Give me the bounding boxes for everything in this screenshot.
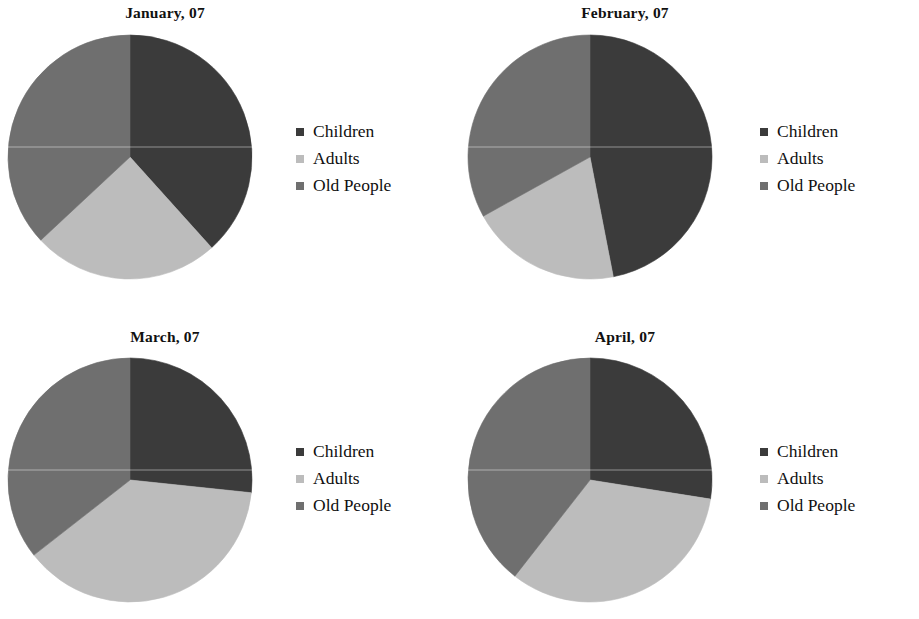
chart-title: February, 07 (460, 4, 790, 22)
legend-swatch-adults-icon (296, 155, 304, 163)
legend-item-adults: Adults (760, 145, 919, 172)
legend-swatch-children-icon (296, 448, 304, 456)
chart-title: April, 07 (460, 328, 790, 346)
legend-label-old-people: Old People (777, 177, 855, 195)
pie-chart-february (466, 32, 714, 282)
legend-label-adults: Adults (777, 470, 824, 488)
legend-item-adults: Adults (296, 145, 456, 172)
pie-slice-children (130, 358, 252, 493)
legend-item-children: Children (296, 118, 456, 145)
legend-label-children: Children (313, 123, 374, 141)
legend-item-children: Children (296, 438, 456, 465)
legend-label-adults: Adults (313, 470, 360, 488)
chart-panel-april: April, 07 Children Adults Old People (460, 310, 919, 619)
legend-label-adults: Adults (313, 150, 360, 168)
legend-label-children: Children (777, 443, 838, 461)
pie-chart-january (6, 32, 254, 282)
legend-item-children: Children (760, 438, 919, 465)
legend-item-adults: Adults (760, 465, 919, 492)
legend-item-adults: Adults (296, 465, 456, 492)
legend: Children Adults Old People (296, 118, 456, 199)
legend-swatch-adults-icon (296, 475, 304, 483)
pie-svg (466, 32, 714, 282)
legend-label-old-people: Old People (313, 177, 391, 195)
pie-chart-april (466, 355, 714, 605)
pie-slice-children (590, 358, 712, 499)
pie-chart-grid: January, 07 Children Adults Old People F… (0, 0, 919, 619)
legend-swatch-old-people-icon (760, 182, 768, 190)
legend-label-adults: Adults (777, 150, 824, 168)
legend-label-old-people: Old People (777, 497, 855, 515)
legend: Children Adults Old People (760, 438, 919, 519)
legend-label-children: Children (777, 123, 838, 141)
chart-panel-february: February, 07 Children Adults Old People (460, 0, 919, 310)
legend-label-old-people: Old People (313, 497, 391, 515)
legend-swatch-old-people-icon (296, 182, 304, 190)
chart-title: January, 07 (0, 4, 330, 22)
legend-swatch-adults-icon (760, 475, 768, 483)
legend-item-old-people: Old People (296, 172, 456, 199)
legend-swatch-adults-icon (760, 155, 768, 163)
chart-title: March, 07 (0, 328, 330, 346)
chart-panel-march: March, 07 Children Adults Old People (0, 310, 460, 619)
legend-swatch-old-people-icon (296, 502, 304, 510)
legend-item-old-people: Old People (760, 492, 919, 519)
legend-swatch-children-icon (296, 128, 304, 136)
pie-svg (6, 32, 254, 282)
pie-svg (466, 355, 714, 605)
pie-slice-children (590, 35, 712, 277)
legend: Children Adults Old People (760, 118, 919, 199)
legend-item-children: Children (760, 118, 919, 145)
chart-panel-january: January, 07 Children Adults Old People (0, 0, 460, 310)
pie-svg (6, 355, 254, 605)
legend-swatch-children-icon (760, 448, 768, 456)
legend-item-old-people: Old People (760, 172, 919, 199)
legend-swatch-old-people-icon (760, 502, 768, 510)
legend-swatch-children-icon (760, 128, 768, 136)
legend: Children Adults Old People (296, 438, 456, 519)
legend-item-old-people: Old People (296, 492, 456, 519)
legend-label-children: Children (313, 443, 374, 461)
pie-chart-march (6, 355, 254, 605)
